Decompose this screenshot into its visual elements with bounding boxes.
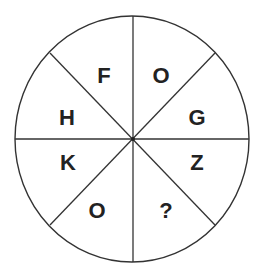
sector-label-right-upper: G bbox=[188, 107, 205, 129]
letter-wheel-diagram bbox=[0, 0, 260, 280]
sector-label-unknown: ? bbox=[159, 200, 172, 222]
center-dot bbox=[131, 137, 135, 141]
sector-label-right-lower: Z bbox=[190, 152, 203, 174]
sector-label-bottom-left: O bbox=[88, 200, 105, 222]
sector-label-left-lower: K bbox=[60, 152, 76, 174]
sector-label-left-upper: H bbox=[59, 107, 75, 129]
sector-label-top-left: F bbox=[97, 65, 110, 87]
sector-label-top-right: O bbox=[152, 65, 169, 87]
